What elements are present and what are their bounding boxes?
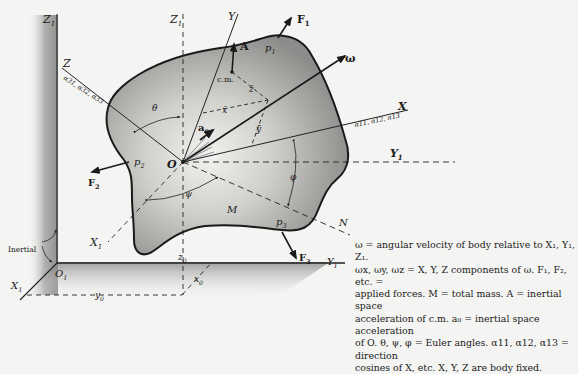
svg-text:F2: F2 <box>88 177 100 191</box>
svg-text:φ: φ <box>290 172 297 182</box>
svg-text:X1: X1 <box>89 236 102 251</box>
caption-line: ωx, ωy, ωz = X, Y, Z components of ω. F₁… <box>355 264 575 289</box>
svg-text:c.m.: c.m. <box>217 75 234 84</box>
caption-line: applied forces. M = total mass. A = iner… <box>355 288 575 313</box>
inertial-floor-shading <box>25 262 330 300</box>
caption-line: cosines of X, etc. X, Y, Z are body fixe… <box>355 362 575 374</box>
svg-text:X1: X1 <box>10 280 22 294</box>
svg-text:F1: F1 <box>297 13 310 28</box>
svg-text:x̄: x̄ <box>222 105 227 115</box>
svg-text:Inertial: Inertial <box>8 245 37 254</box>
f1-vector <box>278 18 291 38</box>
caption-line: of O. θ, ψ, φ = Euler angles. α11, α12, … <box>355 337 575 362</box>
origin-o <box>181 160 185 164</box>
svg-text:Y1: Y1 <box>390 147 403 162</box>
svg-text:O: O <box>167 158 177 171</box>
svg-text:N: N <box>338 217 349 228</box>
svg-text:z̄: z̄ <box>248 84 254 94</box>
svg-text:ψ: ψ <box>185 189 193 199</box>
svg-text:Z1: Z1 <box>169 13 182 28</box>
caption-line: ω = angular velocity of body relative to… <box>355 239 575 264</box>
f2-vector <box>92 162 129 172</box>
svg-text:A: A <box>239 40 249 53</box>
svg-text:Y1: Y1 <box>327 256 338 270</box>
rigid-body <box>107 35 349 254</box>
svg-text:ȳ: ȳ <box>255 124 262 134</box>
caption-text: ω = angular velocity of body relative to… <box>355 239 575 374</box>
caption-line: acceleration of c.m. a₀ = inertial space… <box>355 313 575 338</box>
svg-text:θ: θ <box>152 103 158 113</box>
f3-vector <box>282 232 296 258</box>
svg-text:ω: ω <box>345 52 356 65</box>
svg-text:α11, α12, α13: α11, α12, α13 <box>354 112 401 129</box>
svg-text:Z: Z <box>62 57 71 70</box>
svg-text:M: M <box>226 204 238 215</box>
svg-text:α31, α32, α33: α31, α32, α33 <box>62 74 105 106</box>
